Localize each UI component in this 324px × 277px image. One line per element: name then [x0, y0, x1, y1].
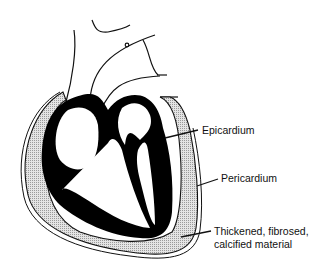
label-thickened-line1: Thickened, fibrosed, — [214, 225, 309, 237]
label-thickened-line2: calcified material — [214, 238, 292, 250]
label-epicardium: Epicardium — [202, 124, 255, 136]
label-pericardium: Pericardium — [221, 172, 277, 184]
